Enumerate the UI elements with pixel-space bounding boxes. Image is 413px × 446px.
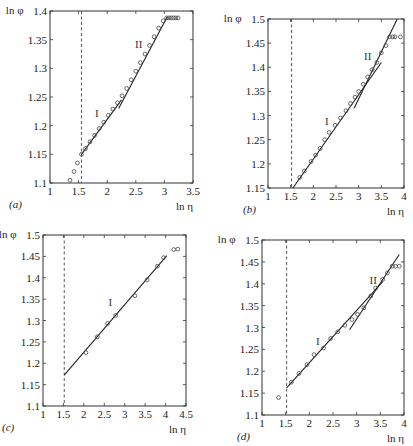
x-tick-label: 3.5 <box>373 417 387 429</box>
x-tick-label: 3 <box>354 417 360 429</box>
x-axis-label: ln η <box>387 432 404 444</box>
region-label: II <box>370 274 378 286</box>
panel-d: 11.522.533.541.11.151.21.251.31.351.41.4… <box>218 233 407 444</box>
data-point <box>68 178 72 182</box>
x-tick-label: 1.5 <box>57 408 71 420</box>
x-tick-label: 3 <box>356 190 362 202</box>
data-point <box>138 61 142 65</box>
region-label: II <box>135 38 143 50</box>
region-label: I <box>316 335 320 347</box>
x-tick-label: 2.5 <box>326 417 340 429</box>
x-axis-label: ln η <box>387 205 404 217</box>
y-tick-label: 1.3 <box>26 315 40 327</box>
y-tick-label: 1.35 <box>21 293 41 305</box>
y-axis-label: ln φ <box>6 4 24 16</box>
data-point <box>361 82 365 86</box>
y-axis-label: ln φ <box>218 233 236 245</box>
data-point <box>356 312 360 316</box>
y-tick-label: 1.5 <box>26 229 40 241</box>
region-label: II <box>364 50 372 62</box>
data-point <box>148 44 152 48</box>
data-point <box>323 138 327 142</box>
data-point <box>157 26 161 30</box>
panel-label: (a) <box>9 198 22 211</box>
y-tick-label: 1.4 <box>245 278 259 290</box>
x-tick-label: 1.5 <box>279 417 293 429</box>
x-tick-label: 1 <box>40 408 46 420</box>
y-tick-label: 1.15 <box>246 182 266 194</box>
data-point <box>72 170 76 174</box>
data-point <box>143 52 147 56</box>
fit-line-ii <box>350 254 400 329</box>
panel-label: (b) <box>243 203 256 216</box>
y-tick-label: 1.25 <box>28 91 48 103</box>
panel-c: 11.522.533.544.51.11.151.21.251.31.351.4… <box>0 228 193 435</box>
y-tick-label: 1.45 <box>246 37 266 49</box>
region-label: I <box>109 296 113 308</box>
data-point <box>134 69 138 73</box>
y-tick-label: 1.35 <box>28 34 48 46</box>
y-tick-label: 1.2 <box>26 357 40 369</box>
x-tick-label: 1 <box>259 417 265 429</box>
fit-line-i <box>287 282 383 388</box>
y-tick-label: 1.4 <box>26 272 40 284</box>
y-axis-label: ln φ <box>224 12 242 24</box>
y-tick-label: 1.15 <box>28 148 48 160</box>
x-tick-label: 4 <box>163 408 169 420</box>
x-tick-label: 2.5 <box>329 190 343 202</box>
x-tick-label: 1.5 <box>284 190 298 202</box>
y-tick-label: 1.1 <box>26 400 40 412</box>
y-tick-label: 1.3 <box>33 62 47 74</box>
x-tick-label: 2 <box>307 417 313 429</box>
y-tick-label: 1.4 <box>251 61 265 73</box>
data-point <box>76 161 80 165</box>
y-tick-label: 1.25 <box>240 343 260 355</box>
data-point <box>327 131 331 135</box>
data-point <box>357 90 361 94</box>
figure-four-panel-scatter: 11.522.533.51.11.151.21.251.31.351.4ln φ… <box>0 0 413 446</box>
x-tick-label: 1 <box>47 185 53 197</box>
data-point <box>397 264 401 268</box>
x-tick-label: 2.5 <box>97 408 111 420</box>
fit-line-i <box>81 100 121 154</box>
data-point <box>172 248 176 252</box>
x-axis-label: ln η <box>176 200 193 212</box>
x-tick-label: 3 <box>122 408 128 420</box>
y-tick-label: 1.45 <box>21 250 41 262</box>
data-point <box>125 87 129 91</box>
x-tick-label: 3.5 <box>374 190 388 202</box>
x-tick-label: 3 <box>162 185 168 197</box>
y-tick-label: 1.25 <box>246 134 266 146</box>
panel-a: 11.522.533.51.11.151.21.251.31.351.4ln φ… <box>6 4 201 212</box>
data-point <box>398 35 402 39</box>
data-point <box>84 351 88 355</box>
data-point <box>312 353 316 357</box>
x-tick-label: 2.5 <box>129 185 143 197</box>
x-tick-label: 4 <box>401 190 407 202</box>
fit-line-i <box>64 256 167 376</box>
data-point <box>333 123 337 127</box>
y-tick-label: 1.25 <box>21 336 41 348</box>
data-point <box>133 294 137 298</box>
x-tick-label: 3.5 <box>138 408 152 420</box>
x-tick-label: 1.5 <box>72 185 86 197</box>
x-tick-label: 3.5 <box>186 185 200 197</box>
data-point <box>120 94 124 98</box>
region-label: I <box>95 107 99 119</box>
y-tick-label: 1.2 <box>33 120 47 132</box>
y-tick-label: 1.3 <box>245 322 259 334</box>
y-tick-label: 1.45 <box>240 256 260 268</box>
y-tick-label: 1.2 <box>245 365 259 377</box>
data-point <box>350 318 354 322</box>
y-tick-label: 1.15 <box>21 379 41 391</box>
plot-area <box>50 11 193 183</box>
fit-line-ii <box>119 17 168 109</box>
y-tick-label: 1.35 <box>246 85 266 97</box>
region-label: I <box>325 115 329 127</box>
y-tick-label: 1.5 <box>245 234 259 246</box>
y-tick-label: 1.5 <box>251 13 265 25</box>
y-tick-label: 1.35 <box>240 300 260 312</box>
x-tick-label: 2 <box>81 408 87 420</box>
y-tick-label: 1.4 <box>33 5 47 17</box>
x-tick-label: 4 <box>401 417 407 429</box>
